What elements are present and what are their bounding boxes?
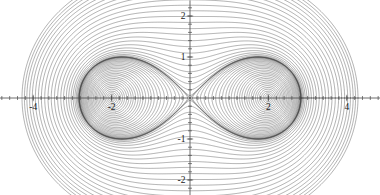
y-tick-label: -1 (178, 134, 186, 144)
y-tick-label: 1 (181, 52, 186, 62)
y-tick-label: -2 (178, 175, 186, 185)
x-tick-label: 4 (344, 102, 349, 112)
x-tick-label: -4 (29, 102, 37, 112)
figure-container: -4-224-2-112 (0, 0, 380, 195)
x-tick-label: -2 (108, 102, 116, 112)
y-tick-label: 2 (181, 11, 186, 21)
cassini-ovals-plot: -4-224-2-112 (0, 0, 380, 195)
x-tick-label: 2 (266, 102, 271, 112)
